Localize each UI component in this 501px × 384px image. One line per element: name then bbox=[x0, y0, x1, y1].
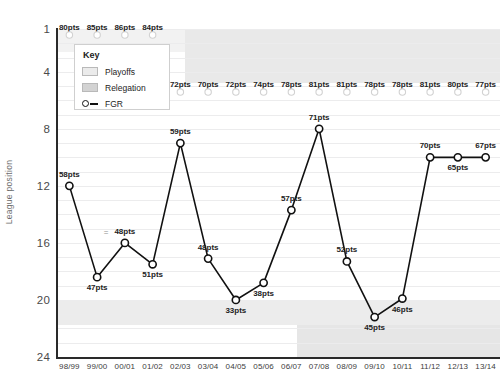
fgr-point-label: 48pts bbox=[114, 227, 135, 236]
relegation-swatch-icon bbox=[82, 83, 98, 92]
fgr-point-label: 65pts bbox=[447, 163, 468, 172]
reference-point-label: 81pts bbox=[336, 80, 357, 89]
fgr-point-label: 33pts bbox=[225, 306, 246, 315]
x-axis-tick-label: 00/01 bbox=[115, 362, 136, 371]
fgr-data-point bbox=[288, 207, 295, 214]
reference-point-label: 80pts bbox=[59, 23, 80, 32]
reference-point-label: 80pts bbox=[447, 80, 468, 89]
gridline bbox=[56, 243, 500, 244]
x-axis-tick-label: 13/14 bbox=[475, 362, 496, 371]
y-axis-tick-label: 8 bbox=[10, 123, 50, 135]
legend-box: Key Playoffs Relegation FGR bbox=[74, 44, 170, 110]
gridline bbox=[56, 314, 500, 315]
gridline bbox=[56, 257, 500, 258]
ghost-annotation-mark: = bbox=[104, 228, 109, 237]
x-axis-tick-label: 05/06 bbox=[253, 362, 274, 371]
fgr-data-point bbox=[205, 255, 212, 262]
fgr-point-label: 59pts bbox=[170, 127, 191, 136]
legend-item-fgr: FGR bbox=[82, 97, 162, 110]
legend-label-relegation: Relegation bbox=[105, 83, 146, 93]
fgr-data-point bbox=[149, 261, 156, 268]
reference-point-label: 74pts bbox=[253, 80, 274, 89]
reference-point-label: 70pts bbox=[198, 80, 219, 89]
gridline bbox=[56, 115, 500, 116]
gridline bbox=[56, 214, 500, 215]
gridline bbox=[56, 200, 500, 201]
fgr-data-point bbox=[343, 258, 350, 265]
fgr-point-label: 52pts bbox=[336, 245, 357, 254]
fgr-point-label: 48pts bbox=[198, 243, 219, 252]
x-axis-tick-label: 04/05 bbox=[226, 362, 247, 371]
y-axis-tick-label: 1 bbox=[10, 23, 50, 35]
gridline bbox=[56, 328, 500, 329]
x-axis-tick-label: 07/08 bbox=[309, 362, 330, 371]
y-axis-tick-label: 24 bbox=[10, 351, 50, 363]
y-axis-tick-label: 4 bbox=[10, 66, 50, 78]
y-axis-tick-label: 16 bbox=[10, 237, 50, 249]
gridline bbox=[56, 271, 500, 272]
fgr-point-label: 70pts bbox=[420, 141, 441, 150]
x-axis-tick-label: 06/07 bbox=[281, 362, 302, 371]
fgr-point-label: 51pts bbox=[142, 270, 163, 279]
fgr-point-label: 38pts bbox=[253, 289, 274, 298]
fgr-point-label: 46pts bbox=[392, 305, 413, 314]
fgr-data-point bbox=[94, 274, 101, 281]
gridline bbox=[56, 186, 500, 187]
gridline bbox=[56, 300, 500, 301]
fgr-marker-icon bbox=[82, 99, 98, 108]
fgr-point-label: 58pts bbox=[59, 170, 80, 179]
legend-item-relegation: Relegation bbox=[82, 81, 162, 94]
y-axis-line bbox=[56, 28, 58, 359]
band-relegation-full bbox=[56, 301, 500, 325]
reference-point-label: 78pts bbox=[364, 80, 385, 89]
reference-point-label: 72pts bbox=[225, 80, 246, 89]
y-axis-tick-label: 12 bbox=[10, 180, 50, 192]
x-axis-tick-label: 10/11 bbox=[392, 362, 412, 371]
fgr-point-label: 47pts bbox=[87, 283, 108, 292]
reference-point-label: 85pts bbox=[87, 23, 108, 32]
gridline bbox=[56, 172, 500, 173]
x-axis-tick-label: 03/04 bbox=[198, 362, 219, 371]
x-axis-tick-label: 11/12 bbox=[420, 362, 440, 371]
reference-point-label: 81pts bbox=[420, 80, 441, 89]
legend-title: Key bbox=[83, 50, 162, 60]
fgr-point-label: 71pts bbox=[309, 113, 330, 122]
gridline bbox=[56, 286, 500, 287]
x-axis-tick-label: 09/10 bbox=[364, 362, 385, 371]
gridline bbox=[56, 129, 500, 130]
reference-point-label: 81pts bbox=[309, 80, 330, 89]
x-axis-tick-label: 02/03 bbox=[170, 362, 191, 371]
legend-label-fgr: FGR bbox=[105, 99, 123, 109]
reference-point-label: 86pts bbox=[114, 23, 135, 32]
reference-point-label: 72pts bbox=[170, 80, 191, 89]
gridline bbox=[56, 157, 500, 158]
gridline bbox=[56, 343, 500, 344]
legend-item-playoffs: Playoffs bbox=[82, 65, 162, 78]
fgr-point-label: 45pts bbox=[364, 323, 385, 332]
band-relegation-extended bbox=[297, 325, 500, 357]
band-playoffs-extended bbox=[185, 29, 500, 83]
x-axis-tick-label: 01/02 bbox=[142, 362, 163, 371]
playoffs-swatch-icon bbox=[82, 67, 98, 76]
reference-point-label: 78pts bbox=[392, 80, 413, 89]
chart-root: 14812162024 League position 98/9999/0000… bbox=[0, 0, 501, 384]
x-axis-tick-label: 98/99 bbox=[59, 362, 80, 371]
reference-point-label: 84pts bbox=[142, 23, 163, 32]
reference-point-label: 77pts bbox=[475, 80, 496, 89]
x-axis-line bbox=[56, 357, 500, 359]
x-axis-tick-label: 99/00 bbox=[87, 362, 108, 371]
y-axis-tick-label: 20 bbox=[10, 294, 50, 306]
y-axis-title: League position bbox=[4, 160, 14, 225]
reference-point-label: 78pts bbox=[281, 80, 302, 89]
x-axis-tick-label: 12/13 bbox=[448, 362, 469, 371]
x-axis-tick-label: 08/09 bbox=[337, 362, 358, 371]
fgr-point-label: 67pts bbox=[475, 141, 496, 150]
fgr-point-label: 57pts bbox=[281, 194, 302, 203]
legend-label-playoffs: Playoffs bbox=[105, 67, 135, 77]
